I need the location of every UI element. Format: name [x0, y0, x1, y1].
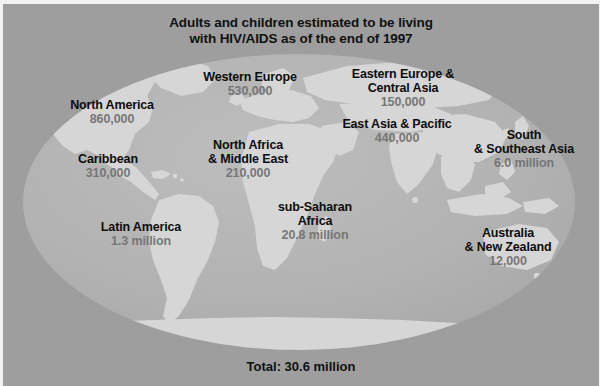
poster-panel: Adults and children estimated to be livi… — [3, 4, 599, 386]
region-label-sub-saharan-africa: sub-Saharan Africa 20.8 million — [235, 200, 395, 243]
region-name: North Africa & Middle East — [163, 138, 333, 166]
region-value: 6.0 million — [449, 156, 599, 171]
region-value: 12,000 — [423, 254, 593, 269]
region-value: 210,000 — [163, 166, 333, 181]
world-map — [3, 4, 599, 386]
region-value: 20.8 million — [235, 228, 395, 243]
land-new-zealand — [565, 268, 581, 290]
land-alaska — [17, 72, 47, 92]
land-sri-lanka — [412, 197, 418, 203]
region-value: 150,000 — [313, 95, 493, 110]
page-title: Adults and children estimated to be livi… — [3, 15, 599, 46]
total-label: Total: 30.6 million — [3, 359, 599, 374]
region-value: 860,000 — [17, 112, 207, 127]
world-map-svg — [3, 4, 599, 386]
region-label-latin-america: Latin America 1.3 million — [51, 220, 231, 249]
region-name: Australia & New Zealand — [423, 226, 593, 254]
title-line-2: with HIV/AIDS as of the end of 1997 — [3, 31, 599, 47]
region-name: Eastern Europe & Central Asia — [313, 67, 493, 95]
region-label-australia-new-zealand: Australia & New Zealand 12,000 — [423, 226, 593, 269]
region-label-north-africa-middle-east: North Africa & Middle East 210,000 — [163, 138, 333, 181]
region-name: South & Southeast Asia — [449, 128, 599, 156]
title-line-1: Adults and children estimated to be livi… — [3, 15, 599, 31]
region-name: Latin America — [51, 220, 231, 234]
region-value: 1.3 million — [51, 234, 231, 249]
region-name: sub-Saharan Africa — [235, 200, 395, 228]
region-name: North America — [17, 98, 207, 112]
region-label-north-america: North America 860,000 — [17, 98, 207, 127]
land-tasmania — [534, 273, 540, 279]
screenshot-root: Adults and children estimated to be livi… — [0, 0, 600, 386]
region-label-south-southeast-asia: South & Southeast Asia 6.0 million — [449, 128, 599, 171]
region-label-eastern-europe-central-asia: Eastern Europe & Central Asia 150,000 — [313, 67, 493, 110]
land-antarctica — [3, 317, 599, 356]
